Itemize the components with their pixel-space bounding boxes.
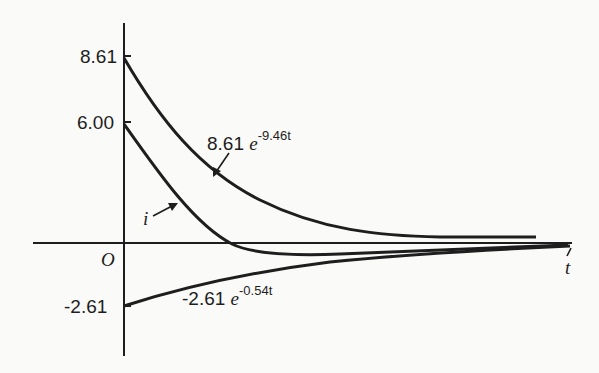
lower-coef: -2.61	[182, 288, 225, 309]
upper-exponent: -9.46t	[258, 128, 291, 143]
lower-base: e	[231, 288, 239, 309]
arrow-upper-label	[216, 153, 229, 172]
curve-upper-exponential	[124, 58, 536, 237]
tick-label-8-61: 8.61	[80, 47, 117, 66]
upper-base: e	[249, 133, 257, 154]
curve-i	[124, 124, 568, 255]
lower-curve-label: -2.61 e-0.54t	[182, 287, 272, 308]
tick-label-neg-2-61: -2.61	[64, 297, 107, 316]
lower-exponent: -0.54t	[239, 283, 272, 298]
i-curve-label: i	[143, 209, 148, 228]
tick-label-6-00: 6.00	[77, 113, 114, 132]
t-axis-label: t	[565, 258, 570, 277]
upper-curve-label: 8.61 e-9.46t	[207, 132, 291, 153]
arrow-t-axis-end	[567, 248, 571, 256]
origin-label: O	[101, 250, 115, 269]
upper-coef: 8.61	[207, 133, 244, 154]
arrow-i-label	[153, 206, 172, 216]
